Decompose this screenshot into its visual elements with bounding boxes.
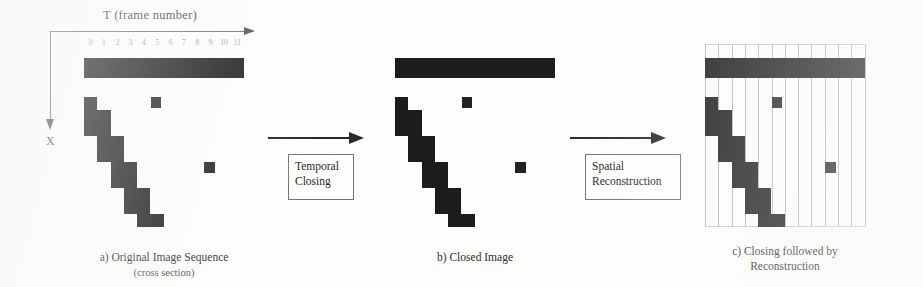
t-axis-line — [50, 31, 245, 32]
cell-staircase-r7-c1 — [408, 149, 435, 162]
cell-bar-r0-c0 — [84, 58, 244, 78]
cell-staircase-r7-c1 — [718, 149, 745, 162]
cell-staircase-r6-c1 — [718, 136, 745, 149]
cell-staircase-r3-c0 — [395, 97, 408, 110]
x-axis-arrowhead — [46, 119, 54, 130]
cell-spot-r3-c5 — [772, 97, 783, 108]
cell-spot-r3-c5 — [151, 97, 162, 108]
figure-canvas: T (frame number) X 01234567891011 a) Ori… — [0, 0, 923, 287]
cell-staircase-r5-c0 — [705, 123, 732, 136]
x-axis-line — [50, 31, 51, 120]
tick-label-5: 5 — [151, 38, 164, 47]
tick-label-9: 9 — [204, 38, 217, 47]
op-box-temporal-closing: Temporal Closing — [288, 154, 354, 200]
cell-staircase-r12-c4 — [758, 214, 785, 227]
cell-staircase-r10-c3 — [745, 188, 772, 201]
t-axis-title: T (frame number) — [103, 8, 197, 23]
cell-staircase-r10-c3 — [435, 188, 462, 201]
caption-panel-b: b) Closed Image — [369, 250, 581, 265]
cell-bar-r0-c0 — [705, 58, 865, 78]
cell-staircase-r3-c0 — [84, 97, 97, 110]
cell-staircase-r5-c0 — [84, 123, 111, 136]
cell-staircase-r6-c1 — [408, 136, 435, 149]
panel-closed-image — [395, 58, 555, 229]
cell-staircase-r4-c0 — [705, 110, 732, 123]
cell-staircase-r12-c4 — [448, 214, 475, 227]
cell-staircase-r8-c2 — [111, 162, 138, 175]
t-axis-arrowhead — [244, 27, 255, 35]
caption-panel-c-line1: c) Closing followed by — [679, 244, 891, 259]
tick-label-4: 4 — [137, 38, 150, 47]
arrow-spatial-reconstruction-line — [570, 137, 652, 139]
arrow-temporal-closing-line — [268, 137, 350, 139]
cell-staircase-r4-c0 — [395, 110, 422, 123]
caption-panel-a-line2: (cross section) — [58, 265, 270, 280]
cell-staircase-r11-c3 — [124, 201, 151, 214]
cell-staircase-r12-c4 — [137, 214, 164, 227]
caption-panel-c-line2: Reconstruction — [679, 259, 891, 274]
cell-staircase-r9-c2 — [422, 175, 449, 188]
x-axis-label: X — [46, 134, 55, 149]
cell-staircase-r6-c1 — [97, 136, 124, 149]
cell-staircase-r9-c2 — [111, 175, 138, 188]
tick-label-7: 7 — [177, 38, 190, 47]
op-box-spatial-reconstruction-line2: Reconstruction — [592, 174, 674, 189]
tick-label-3: 3 — [124, 38, 137, 47]
tick-label-10: 10 — [217, 38, 230, 47]
arrow-temporal-closing-head — [349, 132, 364, 144]
cell-spot-r8-c9 — [204, 162, 215, 173]
cell-staircase-r3-c0 — [705, 97, 718, 110]
tick-label-2: 2 — [111, 38, 124, 47]
panel-closing-followed-by-reconstruction — [705, 44, 865, 229]
cell-staircase-r7-c1 — [97, 149, 124, 162]
caption-panel-a-line1: a) Original Image Sequence — [58, 250, 270, 265]
tick-label-6: 6 — [164, 38, 177, 47]
op-box-temporal-closing-line2: Closing — [295, 174, 347, 189]
cell-staircase-r10-c3 — [124, 188, 151, 201]
cell-bar-r0-c0 — [395, 58, 555, 78]
tick-label-11: 11 — [231, 38, 244, 47]
panel-original-image-sequence — [84, 58, 244, 229]
caption-panel-a: a) Original Image Sequence (cross sectio… — [58, 250, 270, 280]
cell-spot-r3-c5 — [462, 97, 473, 108]
cell-spot-r8-c9 — [825, 162, 836, 173]
cell-staircase-r9-c2 — [732, 175, 759, 188]
tick-label-1: 1 — [97, 38, 110, 47]
caption-panel-b-line1: b) Closed Image — [369, 250, 581, 265]
cell-staircase-r11-c3 — [745, 201, 772, 214]
cell-staircase-r11-c3 — [435, 201, 462, 214]
cell-spot-r8-c9 — [515, 162, 526, 173]
cell-staircase-r8-c2 — [422, 162, 449, 175]
op-box-temporal-closing-line1: Temporal — [295, 159, 347, 174]
arrow-spatial-reconstruction-head — [651, 132, 666, 144]
cell-staircase-r4-c0 — [84, 110, 111, 123]
tick-label-0: 0 — [84, 38, 97, 47]
op-box-spatial-reconstruction: Spatial Reconstruction — [585, 154, 681, 200]
caption-panel-c: c) Closing followed by Reconstruction — [679, 244, 891, 274]
op-box-spatial-reconstruction-line1: Spatial — [592, 159, 674, 174]
tick-label-8: 8 — [191, 38, 204, 47]
cell-staircase-r8-c2 — [732, 162, 759, 175]
cell-staircase-r5-c0 — [395, 123, 422, 136]
column-gridline-12 — [865, 44, 866, 227]
t-axis-tick-labels: 01234567891011 — [84, 38, 244, 47]
